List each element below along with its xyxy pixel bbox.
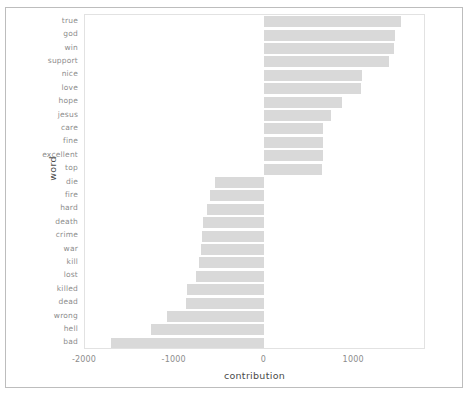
y-axis-tick-label: die	[8, 177, 78, 186]
y-axis-tick-label: hope	[8, 96, 78, 105]
bar	[264, 83, 361, 94]
y-axis-tick-label: support	[8, 56, 78, 65]
y-axis-tick-label: death	[8, 217, 78, 226]
bar	[264, 97, 341, 108]
y-axis-tick-label: fire	[8, 190, 78, 199]
bar	[151, 324, 265, 335]
bar	[199, 257, 265, 268]
y-axis-tick-label: nice	[8, 69, 78, 78]
bar	[196, 271, 264, 282]
bar	[264, 70, 362, 81]
y-axis-tick-label: lost	[8, 270, 78, 279]
bar	[264, 16, 400, 27]
bar	[201, 244, 265, 255]
y-axis-tick-label: killed	[8, 284, 78, 293]
y-axis-tick-label: hard	[8, 203, 78, 212]
bar	[187, 284, 264, 295]
bar	[203, 217, 265, 228]
bar	[186, 298, 264, 309]
y-axis-title: word	[47, 156, 58, 181]
chart-figure: truegodwinsupportnicelovehopejesuscarefi…	[0, 0, 469, 395]
x-axis-tick-label: 1000	[323, 355, 383, 364]
y-axis-tick-label: war	[8, 244, 78, 253]
bar	[167, 311, 265, 322]
bar	[264, 43, 393, 54]
y-axis-tick-label: crime	[8, 230, 78, 239]
bar	[215, 177, 264, 188]
bar	[264, 150, 322, 161]
y-axis-tick-label: excellent	[8, 150, 78, 159]
y-axis-tick-label: top	[8, 163, 78, 172]
bar	[264, 164, 321, 175]
y-axis-tick-label: care	[8, 123, 78, 132]
y-axis-tick-label: bad	[8, 337, 78, 346]
x-axis-title: contribution	[84, 370, 425, 381]
bar	[264, 137, 322, 148]
y-axis-tick-label: jesus	[8, 110, 78, 119]
bar	[264, 123, 322, 134]
y-axis-tick-label: wrong	[8, 311, 78, 320]
bar	[210, 190, 265, 201]
y-axis-tick-label: dead	[8, 297, 78, 306]
y-axis-tick-label: love	[8, 83, 78, 92]
plot-panel	[84, 14, 425, 349]
bar	[202, 231, 265, 242]
bar	[264, 110, 331, 121]
y-axis-tick-label: true	[8, 16, 78, 25]
bar	[207, 204, 264, 215]
y-axis-tick-label: win	[8, 43, 78, 52]
y-axis-tick-label: fine	[8, 136, 78, 145]
x-axis-tick-label: -2000	[54, 355, 114, 364]
bar	[264, 56, 389, 67]
y-axis-tick-label: kill	[8, 257, 78, 266]
bar	[111, 338, 264, 349]
x-axis-tick-label: -1000	[144, 355, 204, 364]
x-axis-tick-label: 0	[233, 355, 293, 364]
bar	[264, 30, 395, 41]
y-axis-tick-label: god	[8, 29, 78, 38]
y-axis-tick-label: hell	[8, 324, 78, 333]
